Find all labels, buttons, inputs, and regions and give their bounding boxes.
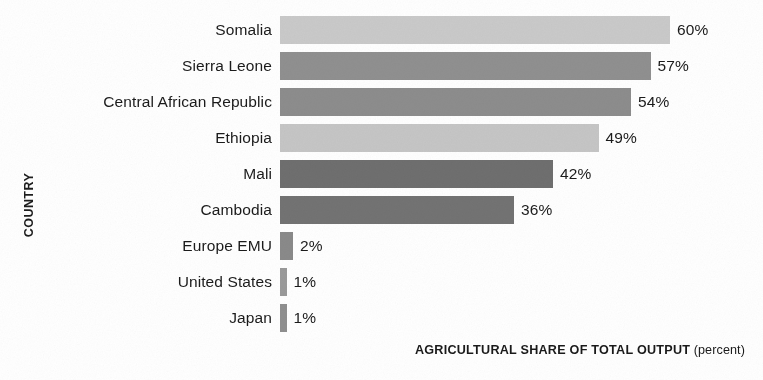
x-axis-title-text: AGRICULTURAL SHARE OF TOTAL OUTPUT [415,343,690,357]
bar-chart: COUNTRY Somalia60%Sierra Leone57%Central… [0,0,763,380]
bar-container: 49% [280,124,637,152]
bar-container: 1% [280,268,316,296]
plot-area: Somalia60%Sierra Leone57%Central African… [0,13,763,337]
value-label: 57% [658,52,689,80]
category-label: Sierra Leone [182,49,272,85]
bar-row: Somalia60% [0,13,763,49]
bar-row: Europe EMU2% [0,229,763,265]
value-label: 1% [294,268,317,296]
bar-row: Central African Republic54% [0,85,763,121]
category-label: Cambodia [201,193,272,229]
bar [280,268,287,296]
value-label: 60% [677,16,708,44]
bar-container: 36% [280,196,552,224]
category-label: Japan [229,301,272,337]
bar [280,52,651,80]
bar [280,124,599,152]
category-label: Mali [243,157,272,193]
bar-row: Ethiopia49% [0,121,763,157]
category-label: Somalia [215,13,272,49]
category-label: Central African Republic [103,85,272,121]
bar [280,16,670,44]
bar-container: 54% [280,88,669,116]
category-label: United States [178,265,272,301]
bar-container: 60% [280,16,708,44]
bar-row: Sierra Leone57% [0,49,763,85]
value-label: 49% [606,124,637,152]
bar-row: United States1% [0,265,763,301]
bar-container: 2% [280,232,323,260]
x-axis-title-unit: (percent) [694,343,745,357]
value-label: 54% [638,88,669,116]
bar [280,232,293,260]
value-label: 42% [560,160,591,188]
bar-row: Cambodia36% [0,193,763,229]
category-label: Europe EMU [182,229,272,265]
bar-container: 57% [280,52,689,80]
bar-container: 1% [280,304,316,332]
category-label: Ethiopia [215,121,272,157]
x-axis-title: AGRICULTURAL SHARE OF TOTAL OUTPUT (perc… [0,343,745,357]
bar [280,196,514,224]
value-label: 36% [521,196,552,224]
bar-row: Mali42% [0,157,763,193]
bar [280,88,631,116]
value-label: 1% [294,304,317,332]
bar-row: Japan1% [0,301,763,337]
bar [280,160,553,188]
value-label: 2% [300,232,323,260]
bar-container: 42% [280,160,591,188]
bar [280,304,287,332]
